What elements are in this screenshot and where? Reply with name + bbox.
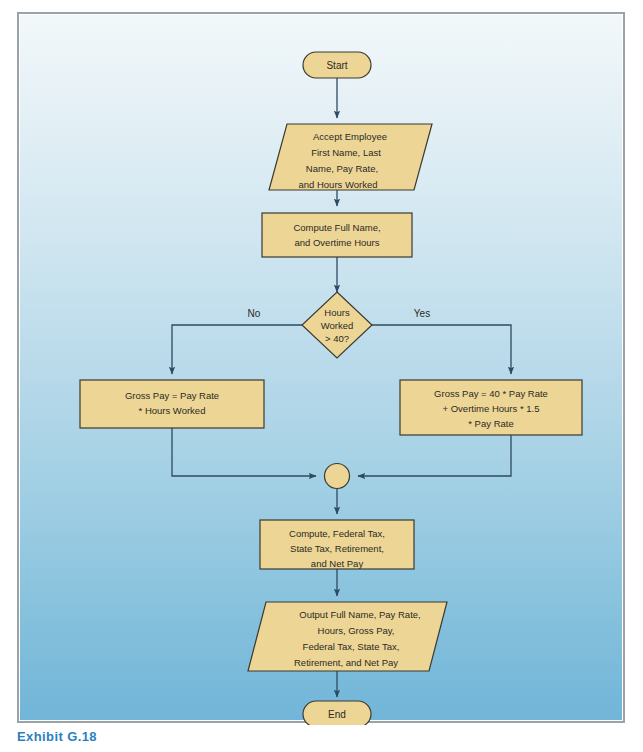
edge-label-yes: Yes: [414, 308, 430, 319]
hours-decision-line-3: > 40?: [325, 333, 349, 344]
compute-name-line-2: and Overtime Hours: [294, 237, 379, 248]
flowchart-diagram: Start Accept Employee First Name, Last N…: [19, 14, 627, 725]
figure-frame: Start Accept Employee First Name, Last N…: [17, 12, 625, 723]
node-hours-decision[interactable]: Hours Worked > 40?: [302, 292, 372, 358]
node-compute-tax[interactable]: Compute, Federal Tax, State Tax, Retirem…: [260, 520, 414, 569]
output-line-4: Retirement, and Net Pay: [294, 657, 398, 668]
edge-label-no: No: [248, 308, 261, 319]
gross-pay-regular-line-1: Gross Pay = Pay Rate: [125, 390, 219, 401]
accept-input-line-4: and Hours Worked: [298, 179, 377, 190]
output-line-3: Federal Tax, State Tax,: [303, 641, 400, 652]
gross-pay-regular-line-2: * Hours Worked: [139, 405, 206, 416]
merge-connector-shape: [325, 464, 350, 489]
node-accept-input[interactable]: Accept Employee First Name, Last Name, P…: [269, 124, 432, 190]
accept-input-line-1: Accept Employee: [313, 131, 387, 142]
hours-decision-line-2: Worked: [321, 320, 354, 331]
node-start[interactable]: Start: [303, 52, 371, 78]
node-end[interactable]: End: [303, 701, 371, 725]
gross-pay-overtime-line-2: + Overtime Hours * 1.5: [443, 403, 540, 414]
gross-pay-overtime-line-1: Gross Pay = 40 * Pay Rate: [434, 388, 548, 399]
node-output[interactable]: Output Full Name, Pay Rate, Hours, Gross…: [248, 602, 447, 671]
accept-input-line-2: First Name, Last: [311, 147, 381, 158]
hours-decision-line-1: Hours: [324, 307, 350, 318]
compute-tax-line-3: and Net Pay: [311, 558, 364, 569]
compute-tax-line-1: Compute, Federal Tax,: [289, 528, 385, 539]
end-label: End: [328, 709, 346, 720]
node-compute-name[interactable]: Compute Full Name, and Overtime Hours: [262, 213, 412, 257]
compute-name-line-1: Compute Full Name,: [293, 222, 380, 233]
gross-pay-regular-shape: [80, 380, 264, 428]
output-line-2: Hours, Gross Pay,: [318, 625, 395, 636]
node-gross-pay-regular[interactable]: Gross Pay = Pay Rate * Hours Worked: [80, 380, 264, 428]
start-label: Start: [326, 60, 347, 71]
compute-tax-line-2: State Tax, Retirement,: [290, 543, 384, 554]
output-line-1: Output Full Name, Pay Rate,: [299, 609, 420, 620]
connector-decision-yes-branch: [372, 325, 511, 374]
connector-overtime-to-merge: [358, 435, 511, 476]
node-merge-connector[interactable]: [325, 464, 350, 489]
connector-decision-no-branch: [172, 325, 302, 374]
compute-name-shape: [262, 213, 412, 257]
gross-pay-overtime-line-3: * Pay Rate: [468, 418, 513, 429]
exhibit-caption: Exhibit G.18: [17, 729, 97, 744]
node-gross-pay-overtime[interactable]: Gross Pay = 40 * Pay Rate + Overtime Hou…: [400, 380, 582, 435]
accept-input-line-3: Name, Pay Rate,: [306, 163, 378, 174]
connector-regular-to-merge: [172, 428, 316, 476]
